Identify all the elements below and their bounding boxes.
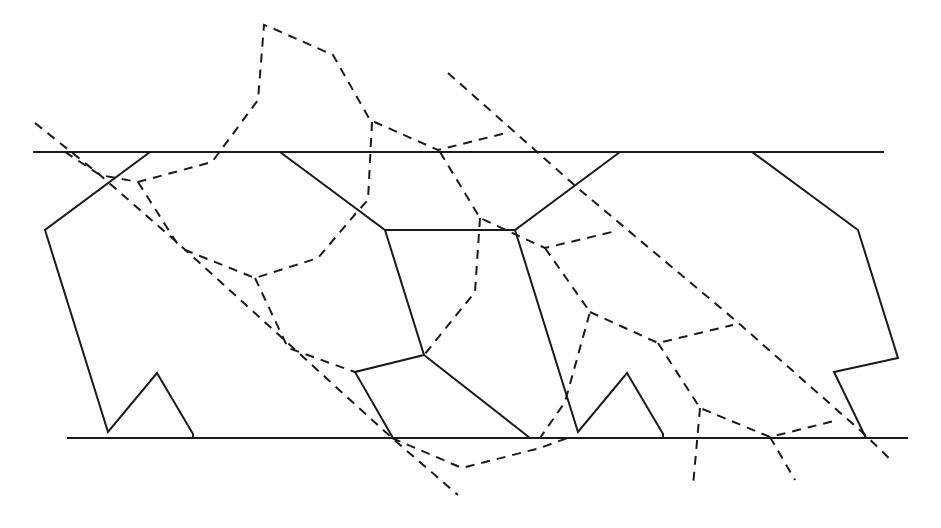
center-dashed-2 [424,218,480,355]
lower-left-tail [392,436,573,468]
center-dashed-1 [440,152,612,248]
left-cell-outline [45,152,193,438]
center-dashed-3 [540,248,590,438]
right-dashed-1 [590,312,733,343]
center-diagonal-edge [424,355,530,438]
long-diagonal-right [448,73,893,462]
center-right-cell-outline [515,230,663,438]
diagram-canvas [0,0,941,528]
inner-branch-1 [138,182,180,248]
solid-lines-group [33,152,908,438]
right-dashed-4 [770,437,795,480]
dashed-lines-group [35,25,893,495]
center-top-cell-outline [280,152,620,230]
right-dashed-3 [693,408,700,486]
right-cell-outline [752,152,898,438]
center-left-edge [355,230,424,438]
right-dashed-2 [658,343,838,437]
